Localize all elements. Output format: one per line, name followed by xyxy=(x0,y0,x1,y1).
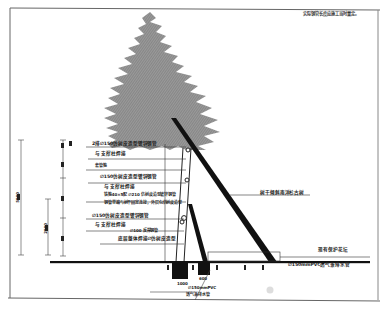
dim-overall-height: 5000 xyxy=(15,192,20,203)
smudge-mark xyxy=(267,287,274,294)
dim-footing-1: 1000 xyxy=(177,281,188,286)
dimension-ticks xyxy=(17,141,264,270)
label-stake: ∅100 反撑钢管 xyxy=(130,228,158,233)
label-vent-pipe-2: 透气兼排水管 xyxy=(186,292,209,297)
label-base-frame: 底层整体焊接∅仿树皮造型 xyxy=(118,236,176,241)
label-mid-pipe-sub: 与 支撑柱焊接 xyxy=(104,184,135,189)
label-mid-pipe: ∅150仿树皮造型镀锌钢管 xyxy=(100,174,157,179)
label-tree-name: 树干倾斜南洋杉古树 xyxy=(260,190,304,195)
label-clamp-note-2: 钢管里端与树干固定连接，外层包仿树皮造型 xyxy=(104,200,182,205)
label-lower-pipe-sub: 与 支撑柱焊接 xyxy=(95,222,126,227)
label-clamp-note-1: 铁箍40×5配 ∅210 仿树皮造型镀锌钢管 xyxy=(104,192,176,197)
dim-footing-2: 600 xyxy=(199,276,207,281)
dim-mid-height: 2000 xyxy=(43,223,48,234)
tree-canopy-icon xyxy=(104,12,220,150)
label-top-pipe: 2排∅150仿树皮造型镀锌钢管 xyxy=(92,141,157,146)
label-existing-edge: 现有保护花坛 xyxy=(318,247,347,252)
top-note: 实际钢管长度应施工当时量定。 xyxy=(303,10,359,16)
label-anchor-ring: 套管箍 xyxy=(95,163,107,168)
label-lower-pipe: ∅150仿树皮造型镀锌钢管 xyxy=(92,213,149,218)
label-vent-pipe-1: ∅150mmPVC xyxy=(188,285,216,290)
label-top-pipe-sub: 与 支撑柱焊接 xyxy=(95,151,126,156)
label-drain-pipe: ∅150mmPVC透气兼排水管 xyxy=(288,262,350,267)
diagonal-brace xyxy=(188,204,208,262)
